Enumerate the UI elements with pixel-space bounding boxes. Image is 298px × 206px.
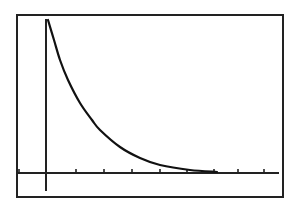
graph-window xyxy=(0,0,298,206)
window-frame xyxy=(17,15,283,197)
decay-curve xyxy=(48,20,217,172)
